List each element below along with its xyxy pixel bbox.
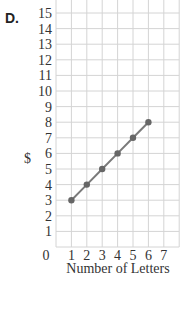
data-point-marker: [68, 197, 74, 203]
y-tick-label: 3: [45, 193, 52, 208]
y-tick-label: 4: [45, 178, 52, 193]
data-point-marker: [99, 166, 105, 172]
grid-lines: [56, 0, 179, 247]
data-point-marker: [145, 119, 151, 125]
x-tick-label: 0: [43, 248, 50, 263]
y-tick-label: 9: [45, 100, 52, 115]
y-tick-label: 1: [45, 224, 52, 239]
y-tick-labels: 123456789101112131415: [38, 6, 52, 239]
y-axis-label: $: [24, 151, 31, 166]
y-tick-label: 7: [45, 131, 52, 146]
y-tick-label: 10: [38, 84, 52, 99]
y-tick-label: 15: [38, 6, 52, 21]
line-chart: 123456789101112131415 01234567 $ Number …: [0, 0, 193, 326]
y-tick-label: 8: [45, 115, 52, 130]
data-point-marker: [84, 181, 90, 187]
y-tick-label: 14: [38, 22, 52, 37]
y-tick-label: 11: [39, 68, 52, 83]
y-tick-label: 5: [45, 162, 52, 177]
x-axis-label: Number of Letters: [66, 261, 169, 276]
data-series: [68, 119, 151, 203]
data-point-marker: [114, 150, 120, 156]
y-tick-label: 6: [45, 146, 52, 161]
series-line: [71, 122, 148, 200]
data-point-marker: [130, 135, 136, 141]
y-tick-label: 13: [38, 37, 52, 52]
y-tick-label: 12: [38, 53, 52, 68]
y-tick-label: 2: [45, 209, 52, 224]
